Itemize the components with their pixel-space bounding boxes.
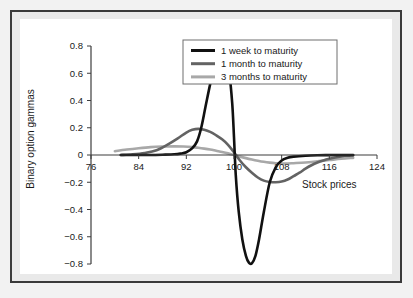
- x-tick-label: 76: [86, 161, 97, 172]
- legend-label-2: 3 months to maturity: [221, 71, 307, 82]
- plot-area: 0.80.60.40.20−0.2−0.4−0.6−0.876849210010…: [20, 19, 392, 274]
- legend-label-1: 1 month to maturity: [221, 58, 303, 69]
- y-tick-label: −0.6: [64, 231, 83, 242]
- chart-legend: 1 week to maturity1 month to maturity3 m…: [183, 40, 337, 84]
- chart-canvas: 0.80.60.40.20−0.2−0.4−0.6−0.876849210010…: [20, 19, 392, 274]
- legend-entries: 1 week to maturity1 month to maturity3 m…: [191, 45, 307, 82]
- y-tick-label: −0.8: [64, 258, 83, 269]
- figure-root: 0.80.60.40.20−0.2−0.4−0.6−0.876849210010…: [0, 0, 413, 298]
- y-tick-label: −0.2: [64, 177, 83, 188]
- x-tick-label: 108: [274, 161, 290, 172]
- x-tick-label: 116: [322, 161, 337, 172]
- y-tick-label: 0.6: [70, 68, 83, 79]
- x-axis-title: Stock prices: [302, 179, 356, 190]
- y-tick-label: 0.4: [70, 95, 83, 106]
- y-axis-title: Binary option gammas: [25, 89, 36, 189]
- x-tick-label: 92: [181, 161, 192, 172]
- y-tick-label: 0.2: [70, 122, 83, 133]
- y-tick-label: 0.8: [70, 40, 83, 51]
- x-tick-label: 84: [133, 161, 144, 172]
- y-tick-label: 0: [78, 149, 83, 160]
- x-tick-label: 124: [369, 161, 385, 172]
- figure-frame: 0.80.60.40.20−0.2−0.4−0.6−0.876849210010…: [10, 10, 402, 283]
- x-tick-label: 100: [226, 161, 242, 172]
- y-tick-label: −0.4: [64, 204, 83, 215]
- legend-label-0: 1 week to maturity: [221, 45, 298, 56]
